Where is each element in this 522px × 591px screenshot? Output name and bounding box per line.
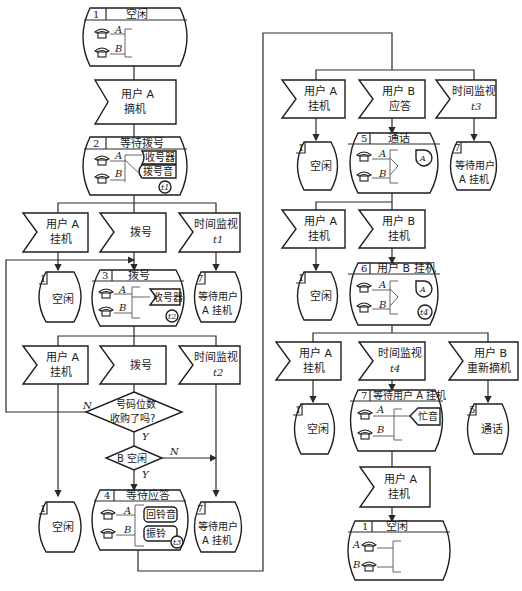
line-a-label: A (352, 539, 360, 550)
state-title: 等待应答 (126, 488, 170, 502)
next-state-wait-a-hangup: 7 等待用户 A 挂机 (195, 502, 242, 552)
input-label: 挂机 (50, 365, 72, 379)
line-b-label: B (118, 302, 126, 313)
next-state-idle: 1 空闲 (39, 502, 81, 552)
state-title: 等待拨号 (120, 136, 164, 150)
line-b-label: B (114, 168, 122, 179)
state-label: 空闲 (310, 159, 332, 173)
input-row-left-1: 用户 A 挂机 拨号 时间监视 t1 (23, 213, 240, 252)
state-label: 空闲 (310, 289, 332, 303)
input-label: 时间监视 (452, 84, 496, 98)
branch-yes-label: Y (142, 431, 150, 442)
state-number: 7 (197, 503, 203, 514)
state-label: A 挂机 (202, 534, 232, 546)
state-number: 5 (469, 404, 475, 415)
state-title: 通话 (388, 132, 410, 145)
branch-yes-label: Y (142, 469, 150, 480)
line-a-label: A (118, 284, 126, 295)
state-number: 1 (295, 404, 301, 415)
state-number: 5 (361, 133, 367, 144)
decision-label: B 空闲 (117, 452, 147, 464)
input-label: t3 (471, 101, 481, 112)
state-label: 等待用户 (455, 159, 495, 171)
line-a-label: A (376, 404, 384, 415)
timer-label: t4 (420, 308, 428, 317)
line-b-label: B (352, 559, 360, 570)
input-label: t4 (390, 363, 400, 374)
next-state-idle: 1 空闲 (296, 142, 338, 190)
state-5-talking: 5 通话 A B A (348, 132, 440, 193)
input-label: 挂机 (50, 232, 72, 246)
branch-no-label: N (169, 446, 180, 457)
line-b-label: B (114, 43, 122, 54)
input-label: 挂机 (308, 99, 330, 113)
line-b-label: B (378, 299, 386, 310)
input-label: 挂机 (388, 229, 410, 243)
state-6-user-b-hangup: 6 用户 B 挂机 A B A t4 (348, 261, 440, 325)
line-b-label: B (376, 424, 384, 435)
input-label: 挂机 (303, 361, 325, 375)
input-user-a-offhook: 用户 A 摘机 (95, 80, 176, 124)
state-number: 3 (102, 270, 108, 281)
decision-b-idle: B 空闲 N Y (106, 446, 180, 480)
input-label: 用户 A (121, 87, 154, 101)
input-label: 重新摘机 (467, 361, 511, 375)
state-label: 等待用户 (198, 290, 238, 302)
input-label: 用户 B (382, 214, 415, 228)
decision-label: 号码位数 (116, 398, 156, 410)
state-title: 用户 B 挂机 (377, 261, 436, 275)
input-row-right-3: 用户 A 挂机 时间监视 t4 用户 B 重新摘机 (276, 342, 518, 380)
state-label: 通话 (481, 423, 503, 436)
state-number: 4 (104, 490, 110, 501)
state-label: 空闲 (52, 520, 74, 534)
state-label: 空闲 (307, 422, 329, 436)
input-label: 时间监视 (378, 346, 422, 360)
state-7-wait-a-hangup: 7 等待用户 A 挂机 A B 忙音 (350, 389, 446, 451)
state-1-idle-final: 1 空闲 A B (348, 519, 450, 580)
state-number: 1 (298, 272, 304, 283)
input-row-right-2: 用户 A 挂机 用户 B 挂机 (282, 210, 425, 248)
line-b-label: B (378, 168, 386, 179)
state-label: 等待用户 (198, 520, 238, 532)
line-a-label: A (114, 24, 122, 35)
state-number: 6 (361, 263, 367, 274)
input-label: 用户 B (382, 84, 415, 98)
line-a-label: A (114, 150, 122, 161)
decision-digits-collected: 号码位数 收购了吗? N Y (82, 392, 182, 442)
input-label: 时间监视 (194, 217, 238, 231)
input-user-a-hangup-final: 用户 A 挂机 (360, 467, 430, 507)
state-4-wait-answer: 4 等待应答 A B 回铃音 振铃 t3 (92, 488, 188, 550)
resource-label: 振铃 (146, 527, 166, 539)
state-2-wait-dial: 2 等待拨号 A B 收号器 拨号音 t1 (83, 136, 187, 195)
input-label: 摘机 (124, 102, 146, 116)
state-title: 空闲 (386, 519, 408, 533)
state-1-idle: 1 空闲 A B (83, 7, 187, 66)
state-number: 2 (93, 138, 99, 149)
next-state-idle: 1 空闲 (39, 272, 81, 322)
state-3-dialing: 3 拨号 A B 收号器 t2 (92, 268, 184, 326)
state-number: 7 (454, 142, 460, 153)
input-label: 用户 B (474, 346, 507, 360)
input-label: 用户 A (46, 217, 79, 231)
next-state-talking: 5 通话 (467, 404, 509, 454)
timer-label: t2 (168, 312, 176, 321)
input-label: 用户 A (299, 346, 332, 360)
next-state-wait-a-hangup: 7 等待用户 A 挂机 (451, 142, 497, 190)
input-row-right-1: 用户 A 挂机 用户 B 应答 时间监视 t3 (282, 80, 496, 118)
input-label: t1 (213, 234, 223, 245)
state-title: 等待用户 A 挂机 (373, 389, 446, 401)
input-label: 用户 A (384, 472, 417, 486)
input-label: 挂机 (308, 229, 330, 243)
state-number: 1 (40, 273, 46, 284)
input-label: 拨号 (130, 225, 152, 239)
billing-label: A (419, 154, 426, 163)
state-title: 拨号 (128, 268, 150, 282)
input-label: 用户 A (304, 214, 337, 228)
timer-label: t1 (161, 183, 169, 192)
next-state-idle: 1 空闲 (293, 404, 335, 454)
state-title: 空闲 (126, 7, 148, 21)
input-label: 挂机 (388, 487, 410, 501)
sdl-diagram: 1 空闲 A B 用户 A 摘机 2 等待拨号 A B 收号器 拨号音 t1 (0, 0, 522, 591)
resource-label: 收号器 (153, 291, 183, 303)
line-a-label: A (378, 148, 386, 159)
